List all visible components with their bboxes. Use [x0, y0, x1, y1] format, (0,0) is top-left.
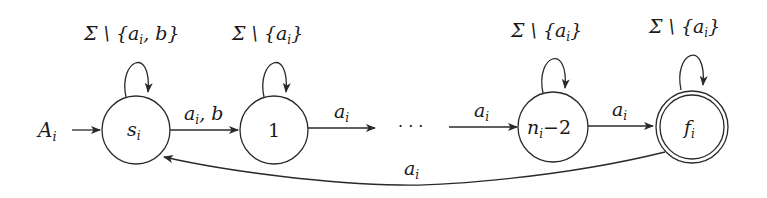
self-loop-s — [125, 63, 149, 97]
self-loop-f — [680, 55, 704, 90]
edge-label-n-to-f: ai — [612, 98, 627, 123]
automaton-diagram: Ai Σ \ {ai, b} si ai, b Σ \ {ai} 1 ai · … — [0, 0, 767, 198]
edge-label-s-to-1: ai, b — [184, 102, 223, 127]
state-f: Σ \ {ai} fi — [648, 15, 728, 163]
loop-label-s: Σ \ {ai, b} — [83, 22, 180, 47]
loop-label-1: Σ \ {ai} — [231, 22, 303, 47]
edge-label-1-to-dots: ai — [334, 100, 349, 125]
loop-label-f: Σ \ {ai} — [648, 15, 720, 40]
initial-arrow: Ai — [36, 118, 100, 144]
loop-label-n: Σ \ {ai} — [510, 19, 582, 44]
edge-label-f-to-s: ai — [404, 157, 419, 182]
ellipsis: · · · — [398, 117, 423, 136]
edge-label-dots-to-n: ai — [474, 99, 489, 124]
initial-label: Ai — [36, 118, 57, 144]
self-loop-1 — [263, 63, 287, 97]
state-n-minus-2: Σ \ {ai} ni−2 — [510, 19, 588, 162]
state-label-1: 1 — [268, 119, 280, 141]
state-label-n: ni−2 — [527, 116, 571, 141]
self-loop-n — [542, 59, 566, 93]
state-s: Σ \ {ai, b} si — [83, 22, 180, 164]
state-1: Σ \ {ai} 1 — [231, 22, 308, 164]
